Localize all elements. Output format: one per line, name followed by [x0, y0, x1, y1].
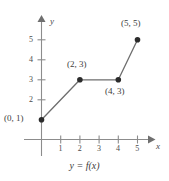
data-point-4-3 [116, 77, 122, 83]
x-tick-label-5: 5 [135, 145, 139, 153]
y-axis-arrowhead [38, 15, 46, 22]
point-annotation-5-5: (5, 5) [121, 19, 141, 28]
y-axis-label: y [50, 17, 54, 26]
data-point-5-5 [135, 37, 141, 43]
point-annotation-4-3: (4, 3) [105, 87, 125, 96]
y-tick-label-5: 5 [29, 36, 33, 44]
graph-figure: y x 5 4 3 2 1 2 3 4 5 (0, 1) (2, 3) (4, … [0, 0, 169, 181]
y-tick-label-3: 3 [29, 76, 33, 84]
data-point-0-1 [39, 117, 45, 123]
x-axis-label: x [156, 142, 160, 151]
coordinate-plot [0, 0, 169, 181]
point-annotation-0-1: (0, 1) [4, 114, 24, 123]
x-tick-label-4: 4 [116, 145, 120, 153]
y-tick-label-2: 2 [29, 96, 33, 104]
point-annotation-2-3: (2, 3) [67, 60, 87, 69]
x-axis-arrowhead [148, 136, 156, 144]
x-tick-label-2: 2 [78, 145, 82, 153]
data-point-2-3 [77, 77, 83, 83]
figure-caption: y = f(x) [0, 161, 169, 171]
x-tick-label-3: 3 [97, 145, 101, 153]
function-curve [42, 40, 138, 120]
y-tick-label-4: 4 [29, 56, 33, 64]
x-tick-label-1: 1 [59, 145, 63, 153]
